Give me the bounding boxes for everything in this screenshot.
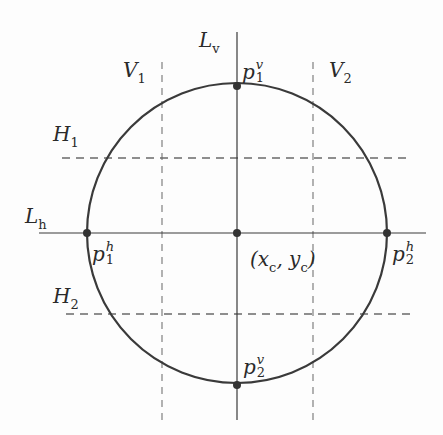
circle-diagram: Lv V1 V2 H1 Lh H2 pv1 pv2 ph1 ph2 (xc, y… — [0, 0, 443, 435]
label-h1: H1 — [53, 124, 79, 144]
label-p2v: pv2 — [243, 357, 266, 377]
label-p1v: pv1 — [242, 62, 265, 82]
label-v1-base: V — [123, 58, 137, 82]
label-lv: Lv — [199, 30, 220, 50]
diagram-canvas — [0, 0, 443, 435]
label-lh-sub: h — [38, 217, 46, 232]
point-center — [233, 229, 241, 237]
label-h2: H2 — [53, 286, 79, 306]
label-p1v-base: p — [242, 60, 255, 84]
label-p2h-base: p — [392, 242, 405, 266]
point-p2h — [383, 229, 391, 237]
label-lh-base: L — [25, 204, 38, 228]
label-center: (xc, yc) — [250, 249, 315, 269]
label-v2: V2 — [329, 60, 352, 80]
label-center-sub-y: c — [300, 260, 307, 275]
label-v2-base: V — [329, 58, 343, 82]
label-p2h-sub: 2 — [406, 253, 414, 266]
label-p1h: ph1 — [92, 244, 115, 264]
label-p1v-sub: 1 — [256, 71, 264, 84]
label-lh: Lh — [25, 206, 47, 226]
label-p2v-sub: 2 — [257, 366, 265, 379]
point-p1v — [233, 82, 241, 90]
label-p2h: ph2 — [392, 244, 415, 264]
label-h2-sub: 2 — [70, 297, 78, 312]
label-h1-base: H — [53, 122, 70, 146]
label-p1h-sub: 1 — [106, 253, 114, 266]
label-center-sub-x: c — [269, 260, 276, 275]
label-center-close: ) — [308, 247, 316, 271]
point-p2v — [233, 381, 241, 389]
label-center-mid: , y — [276, 247, 300, 271]
label-p2v-base: p — [243, 355, 256, 379]
label-center-open: (x — [250, 247, 269, 271]
label-lv-sub: v — [212, 41, 219, 56]
label-h1-sub: 1 — [70, 135, 78, 150]
label-h2-base: H — [53, 284, 70, 308]
label-v1-sub: 1 — [137, 71, 145, 86]
point-p1h — [83, 229, 91, 237]
label-v2-sub: 2 — [343, 71, 351, 86]
label-lv-base: L — [199, 28, 212, 52]
label-p1h-base: p — [92, 242, 105, 266]
label-v1: V1 — [123, 60, 146, 80]
